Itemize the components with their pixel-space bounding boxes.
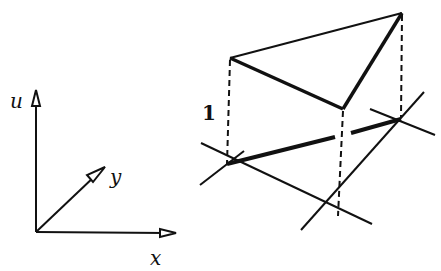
u-arrowhead-icon [32, 90, 40, 106]
hat-triangle [230, 13, 402, 109]
triangle-edge [343, 13, 402, 109]
coordinate-axes [32, 90, 176, 237]
mesh-line [200, 151, 244, 185]
dashed-line [338, 111, 343, 216]
triangle-edge [230, 13, 402, 58]
triangle-edge [230, 58, 343, 109]
diagram-svg: u y x 1 [0, 0, 441, 271]
u-axis-label: u [10, 89, 23, 113]
y-axis-label: y [109, 165, 122, 189]
base-mesh [200, 92, 435, 230]
x-axis [36, 232, 166, 233]
height-label: 1 [202, 101, 216, 125]
dashed-line [227, 60, 230, 164]
dashed-line [401, 15, 402, 118]
diagram-canvas: u y x 1 [0, 0, 441, 271]
mesh-line [370, 109, 435, 135]
x-arrowhead-icon [160, 229, 176, 237]
mesh-line [301, 92, 424, 230]
vertical-dashes [227, 15, 402, 216]
x-axis-label: x [150, 246, 161, 270]
y-axis [36, 175, 96, 232]
